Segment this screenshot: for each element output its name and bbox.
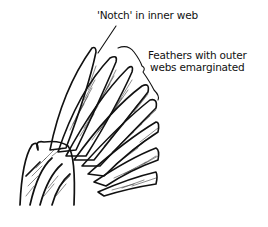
wing-drawing: [0, 0, 268, 227]
emarginated-feathers-label: Feathers with outer webs emarginated: [148, 49, 247, 73]
notch-leader-line: [98, 26, 116, 53]
wing-diagram: 'Notch' in inner web Feathers with outer…: [0, 0, 268, 227]
emarginated-label-line-1: Feathers with outer: [148, 49, 247, 61]
notch-label: 'Notch' in inner web: [97, 9, 198, 21]
covert-hatching: [26, 148, 70, 196]
emarginated-label-line-2: webs emarginated: [148, 61, 247, 73]
primary-feathers: [50, 48, 159, 197]
